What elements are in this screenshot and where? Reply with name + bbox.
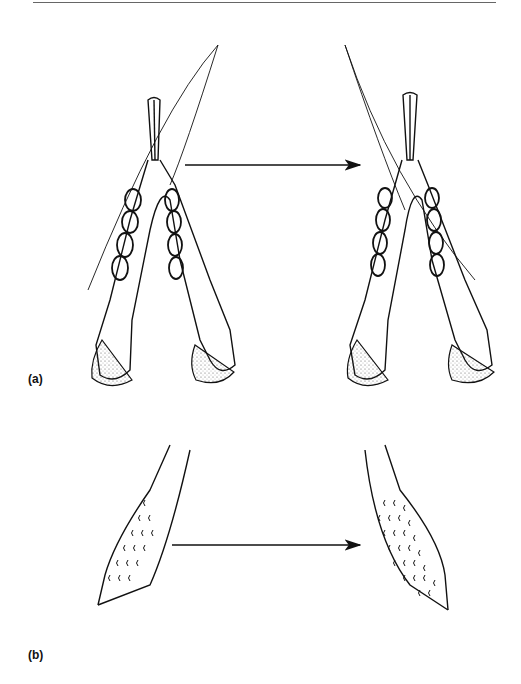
jaw-before	[88, 45, 235, 386]
panel-label-a: (a)	[28, 372, 43, 386]
figure-canvas	[0, 0, 521, 684]
panel-label-b: (b)	[28, 648, 43, 662]
jaw-after	[345, 45, 494, 386]
structure-after	[365, 445, 448, 610]
structure-before	[98, 445, 190, 605]
